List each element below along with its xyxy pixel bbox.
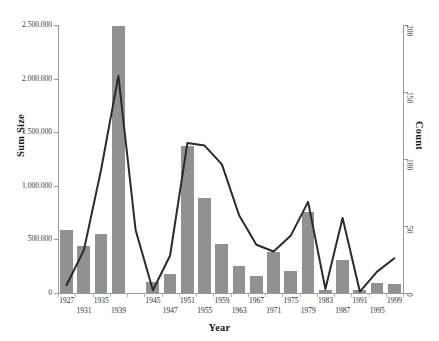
x-tick-label: 1983 bbox=[310, 296, 340, 305]
x-tick bbox=[213, 293, 214, 297]
x-tick-label: 1971 bbox=[259, 306, 289, 315]
x-tick bbox=[351, 293, 352, 297]
x-tick bbox=[58, 293, 59, 297]
y-axis-label-right: Count bbox=[414, 96, 425, 176]
x-tick-label: 1939 bbox=[103, 306, 133, 315]
x-tick bbox=[144, 293, 145, 297]
x-tick bbox=[317, 293, 318, 297]
x-tick-label: 1995 bbox=[362, 306, 392, 315]
y-tick-label-right: 200 bbox=[405, 25, 413, 36]
x-tick bbox=[334, 293, 335, 297]
y-tick-label-left: 1.000.000 bbox=[22, 182, 52, 190]
y-tick-label-right: 100 bbox=[405, 159, 413, 170]
count-line-series bbox=[58, 25, 403, 293]
x-tick-label: 1979 bbox=[293, 306, 323, 315]
x-tick bbox=[75, 293, 76, 297]
x-tick-label: 1975 bbox=[276, 296, 306, 305]
x-tick-label: 1991 bbox=[345, 296, 375, 305]
x-tick bbox=[369, 293, 370, 297]
y-tick-label-left: 2.000.000 bbox=[22, 75, 52, 83]
x-tick-label: 1963 bbox=[224, 306, 254, 315]
x-tick-label: 1935 bbox=[86, 296, 116, 305]
x-tick-label: 1967 bbox=[241, 296, 271, 305]
x-tick-label: 1947 bbox=[155, 306, 185, 315]
x-tick bbox=[403, 293, 404, 297]
x-tick bbox=[127, 293, 128, 297]
x-tick-label: 1987 bbox=[328, 306, 358, 315]
x-tick-label: 1999 bbox=[379, 296, 409, 305]
x-tick bbox=[179, 293, 180, 297]
x-tick bbox=[231, 293, 232, 297]
plot-area bbox=[58, 25, 403, 293]
x-tick-label: 1927 bbox=[52, 296, 82, 305]
y-tick-label-left: 500.000 bbox=[28, 235, 52, 243]
x-tick bbox=[93, 293, 94, 297]
y-tick-label-right: 50 bbox=[405, 226, 413, 234]
chart-container: Sum Size Count Year 0500.0001.000.0001.5… bbox=[0, 0, 439, 341]
x-tick bbox=[386, 293, 387, 297]
y-tick-label-left: 2.500.000 bbox=[22, 21, 52, 29]
x-tick bbox=[300, 293, 301, 297]
x-tick-label: 1959 bbox=[207, 296, 237, 305]
count-line-path bbox=[67, 76, 395, 292]
x-tick-label: 1931 bbox=[69, 306, 99, 315]
y-tick-label-right: 150 bbox=[405, 92, 413, 103]
x-tick bbox=[162, 293, 163, 297]
x-tick bbox=[282, 293, 283, 297]
x-tick bbox=[265, 293, 266, 297]
x-tick bbox=[196, 293, 197, 297]
x-tick-label: 1945 bbox=[138, 296, 168, 305]
x-axis-label: Year bbox=[0, 322, 439, 333]
x-tick bbox=[110, 293, 111, 297]
x-tick-label: 1951 bbox=[172, 296, 202, 305]
x-tick-label: 1955 bbox=[190, 306, 220, 315]
y-tick-label-left: 1.500.000 bbox=[22, 128, 52, 136]
x-tick bbox=[248, 293, 249, 297]
